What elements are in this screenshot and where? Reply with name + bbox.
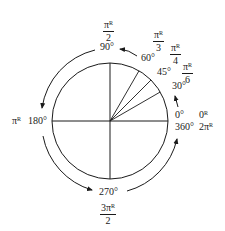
label-pi-over-2-rad: πR 2: [103, 20, 114, 43]
frac-numerator: 3πR: [100, 203, 116, 215]
frac-denominator: 3: [156, 42, 161, 53]
arrow-60-to-90: [120, 49, 137, 56]
numerator-sup: R: [176, 43, 180, 49]
label-0-rad-sup: R: [204, 110, 208, 116]
frac-numerator: πR: [153, 30, 164, 42]
label-0-deg: 0°: [175, 110, 184, 120]
arrow-0-to-30: [175, 96, 178, 107]
label-0-rad: 0R: [199, 110, 208, 120]
arrow-270-to-360: [127, 139, 177, 191]
numerator-sup: R: [188, 62, 192, 68]
frac-denominator: 4: [173, 55, 178, 66]
numerator-sup: R: [111, 203, 115, 209]
frac-denominator: 2: [106, 32, 111, 43]
numerator-sup: R: [159, 30, 163, 36]
frac-denominator: 6: [185, 74, 190, 85]
label-pi-rad-sup: R: [17, 116, 21, 122]
frac-numerator: πR: [170, 43, 181, 55]
label-2pi-rad-value: 2π: [199, 121, 209, 132]
label-45-deg: 45°: [157, 67, 171, 77]
numerator-sup: R: [109, 20, 113, 26]
label-90-deg: 90°: [100, 42, 114, 52]
label-270-deg: 270°: [99, 187, 118, 197]
label-pi-over-3-rad: πR 3: [153, 30, 164, 53]
arrow-90-to-180: [42, 50, 95, 108]
label-pi-over-4-rad: πR 4: [170, 43, 181, 66]
label-2pi-rad-sup: R: [209, 122, 213, 128]
numerator-value: 3π: [101, 202, 111, 213]
label-360-deg: 360°: [175, 122, 194, 132]
label-60-deg: 60°: [141, 53, 155, 63]
arrow-180-to-270: [43, 136, 92, 190]
label-3pi-over-2-rad: 3πR 2: [100, 203, 116, 226]
label-2pi-rad: 2πR: [199, 122, 213, 132]
frac-denominator: 2: [106, 215, 111, 226]
frac-numerator: πR: [103, 20, 114, 32]
frac-numerator: πR: [182, 62, 193, 74]
label-pi-rad: πR: [12, 116, 21, 126]
label-pi-over-6-rad: πR 6: [182, 62, 193, 85]
label-180-deg: 180°: [28, 116, 47, 126]
